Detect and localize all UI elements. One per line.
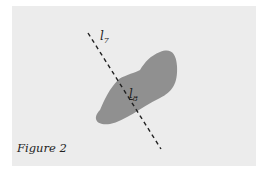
- figure-caption: Figure 2: [17, 141, 67, 155]
- label-l7: l7: [100, 29, 109, 45]
- label-l8: l8: [129, 87, 138, 103]
